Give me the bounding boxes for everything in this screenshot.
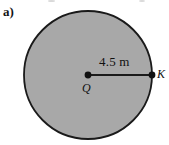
figure-panel: a) 4.5 m Q K [0, 0, 169, 145]
center-point-label: Q [82, 82, 91, 94]
center-point-dot [85, 72, 92, 79]
edge-point-dot [149, 72, 156, 79]
edge-point-label: K [157, 68, 165, 80]
part-label: a) [3, 5, 14, 18]
radius-dimension-label: 4.5 m [99, 55, 130, 68]
circle-diagram-graphic [0, 0, 169, 145]
